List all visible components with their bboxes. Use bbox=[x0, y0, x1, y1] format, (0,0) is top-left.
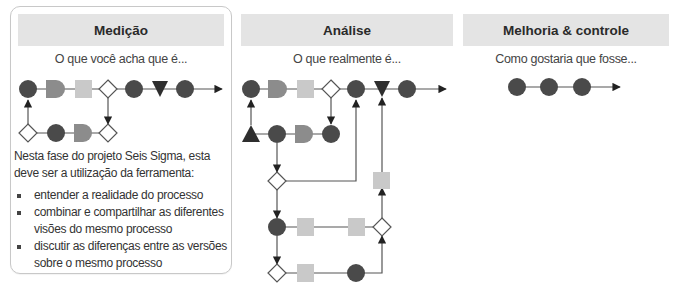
transport-icon bbox=[297, 264, 314, 282]
operation-icon bbox=[540, 78, 558, 96]
transport-icon bbox=[75, 80, 92, 98]
operation-icon bbox=[268, 218, 286, 236]
process-flow-diagrams bbox=[0, 0, 676, 293]
delay-icon bbox=[268, 80, 287, 98]
operation-icon bbox=[19, 80, 37, 98]
decision-icon bbox=[373, 218, 391, 236]
decision-icon bbox=[322, 80, 340, 98]
decision-icon bbox=[268, 264, 286, 282]
operation-icon bbox=[47, 124, 65, 142]
operation-icon bbox=[398, 80, 416, 98]
operation-icon bbox=[573, 78, 591, 96]
melhoria-flowchart bbox=[508, 78, 620, 96]
transport-icon bbox=[348, 218, 365, 236]
operation-icon bbox=[176, 80, 194, 98]
decision-icon bbox=[99, 124, 117, 142]
decision-icon bbox=[268, 172, 286, 190]
operation-icon bbox=[347, 80, 365, 98]
decision-icon bbox=[99, 80, 117, 98]
delay-icon bbox=[46, 80, 65, 98]
delay-icon bbox=[295, 125, 313, 143]
operation-icon bbox=[322, 125, 340, 143]
delay-icon bbox=[74, 124, 92, 142]
operation-icon bbox=[347, 264, 365, 282]
operation-icon bbox=[268, 125, 286, 143]
operation-icon bbox=[242, 80, 260, 98]
operation-icon bbox=[125, 80, 143, 98]
transport-icon bbox=[297, 218, 314, 236]
decision-icon bbox=[19, 124, 37, 142]
transport-icon bbox=[297, 80, 314, 98]
operation-icon bbox=[508, 78, 526, 96]
transport-icon bbox=[373, 172, 390, 189]
